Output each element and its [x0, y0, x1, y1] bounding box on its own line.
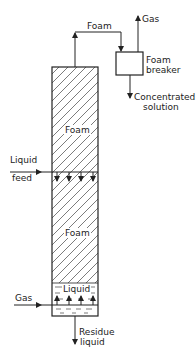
column: [52, 67, 98, 316]
foam-breaker-box: [116, 52, 143, 75]
label-liquid-pool: Liquid: [62, 284, 91, 294]
label-foam-breaker-2: breaker: [146, 65, 180, 75]
foam-outlet-pipe: [75, 32, 121, 67]
gas-inlet-arrow-icon: [36, 302, 42, 308]
label-gas-inlet: Gas: [15, 293, 32, 303]
label-concentrated-1: Concentrated: [134, 92, 195, 102]
label-liquid-feed-2: feed: [12, 173, 32, 183]
label-foam-lower: Foam: [64, 228, 91, 238]
label-foam-upper: Foam: [64, 125, 91, 135]
label-foam-top: Foam: [87, 21, 112, 31]
label-residue-2: liquid: [80, 337, 105, 347]
label-foam-breaker-1: Foam: [146, 55, 171, 65]
liquid-feed-arrow-icon: [36, 169, 42, 175]
label-concentrated-2: solution: [143, 102, 179, 112]
label-liquid-feed-1: Liquid: [10, 155, 37, 165]
label-residue-1: Residue: [79, 327, 115, 337]
label-gas-top: Gas: [142, 14, 159, 24]
